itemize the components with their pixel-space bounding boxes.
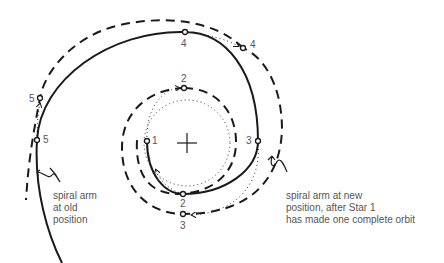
star-4-old-marker	[183, 30, 188, 35]
star-3-new-marker	[181, 212, 186, 217]
orbit-paths-dotted	[37, 32, 258, 215]
star-4-new-label: 4	[250, 40, 256, 50]
star-2-new-label: 2	[181, 74, 187, 84]
galactic-center-cross-icon	[177, 133, 197, 153]
star-2-new-marker	[182, 86, 187, 91]
star-3-old-label: 3	[246, 136, 252, 146]
star-5-new-label: 5	[29, 94, 35, 104]
old-arm-caption-line-2: at old	[53, 202, 97, 214]
old-arm-caption-line-3: position	[53, 214, 97, 226]
star-4-old-label: 4	[181, 39, 187, 49]
star-3-new-label: 3	[180, 221, 186, 231]
new-arm-caption-line-2: position, after Star 1	[286, 202, 415, 214]
new-arm-caption-line-3: has made one complete orbit	[286, 214, 415, 226]
old-arm-caption: spiral arm at old position	[53, 190, 97, 226]
star-5-old-marker	[35, 138, 40, 143]
star-4-new-marker	[241, 46, 246, 51]
old-arm-caption-line-1: spiral arm	[53, 190, 97, 202]
star-2-old-marker	[181, 192, 186, 197]
star-3-old-marker	[256, 139, 261, 144]
new-arm-caption-line-1: spiral arm at new	[286, 190, 415, 202]
old-arm-pointer-icon	[37, 168, 60, 182]
star-2-old-label: 2	[180, 199, 186, 209]
star-markers	[35, 30, 261, 217]
star-1-old-marker	[145, 139, 150, 144]
new-arm-caption: spiral arm at new position, after Star 1…	[286, 190, 415, 226]
star-1-label: 1	[152, 136, 158, 146]
star-5-old-label: 5	[43, 135, 49, 145]
star-5-new-marker	[38, 96, 43, 101]
old-spiral-arm	[37, 32, 258, 263]
